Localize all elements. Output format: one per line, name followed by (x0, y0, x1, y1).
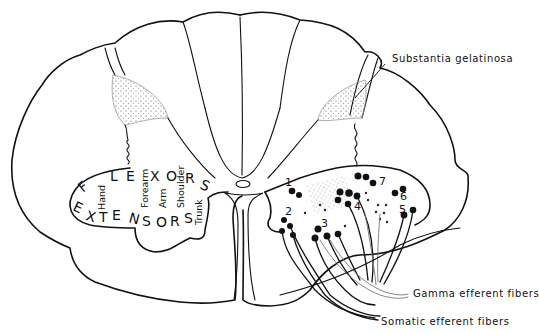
svg-text:T: T (98, 209, 108, 225)
motor-neurons (279, 173, 416, 242)
central-canal (236, 181, 250, 188)
svg-text:E: E (71, 198, 86, 216)
somatic-efferent-label: Somatic efferent fibers (381, 316, 509, 327)
cell-group-5: 5 (399, 203, 406, 216)
svg-text:Forearm: Forearm (139, 169, 150, 208)
cell-group-7: 7 (379, 175, 386, 188)
svg-text:X: X (150, 168, 160, 184)
spinal-cord-diagram: 1 2 3 4 5 6 7 F L E X O R S E X T E (0, 0, 539, 333)
right-substantia-gelatinosa (318, 80, 366, 121)
svg-text:F: F (75, 178, 91, 195)
cell-group-3: 3 (321, 217, 328, 230)
left-substantia-gelatinosa (112, 75, 168, 125)
svg-text:S: S (142, 213, 151, 229)
svg-text:N: N (127, 209, 141, 227)
gamma-efferent-label: Gamma efferent fibers (413, 288, 539, 299)
svg-text:E: E (126, 168, 135, 184)
svg-text:E: E (112, 207, 121, 223)
svg-text:Trunk: Trunk (193, 199, 204, 226)
svg-text:Shoulder: Shoulder (175, 166, 186, 208)
svg-text:Hand: Hand (96, 185, 107, 210)
svg-text:S: S (184, 210, 193, 226)
leader-line-substantia (355, 64, 385, 98)
svg-text:R: R (185, 170, 195, 186)
gamma-efferent-fibers (320, 214, 408, 298)
svg-text:S: S (198, 176, 213, 194)
svg-text:O: O (156, 214, 167, 230)
cell-group-2: 2 (285, 205, 292, 218)
svg-text:R: R (170, 213, 180, 229)
left-dorsal-horn (105, 48, 215, 178)
substantia-gelatinosa-label: Substantia gelatinosa (392, 53, 513, 64)
cell-group-6: 6 (400, 190, 407, 203)
svg-text:L: L (110, 168, 118, 184)
cell-group-1: 1 (285, 176, 292, 189)
svg-text:Arm: Arm (157, 189, 168, 209)
